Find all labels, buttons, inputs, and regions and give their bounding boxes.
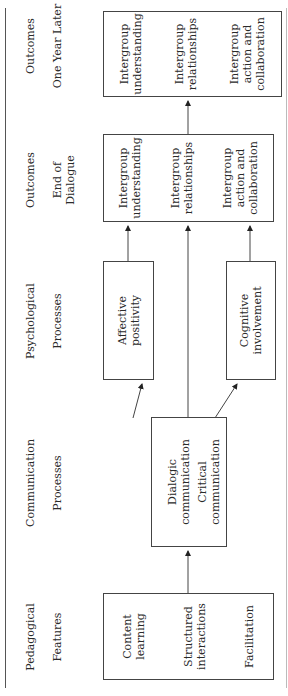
dialogue-model-diagram: Pedagogical Features Communication Proce… (0, 0, 288, 696)
arrow-communication-to-cognitive (215, 384, 237, 418)
arrow-communication-to-affective (133, 384, 142, 418)
arrows-layer (0, 0, 288, 696)
